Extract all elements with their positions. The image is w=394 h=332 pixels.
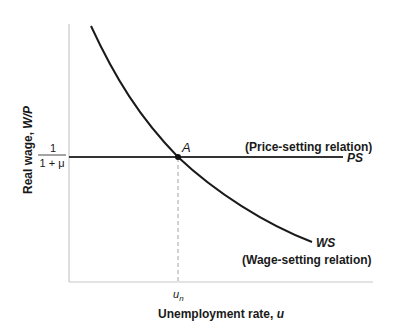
point-a-label: A (181, 140, 191, 155)
point-a-marker (175, 154, 181, 160)
x-axis-label: Unemployment rate, u (158, 307, 285, 321)
ws-name: WS (316, 236, 335, 250)
xtick-un: un (173, 288, 184, 303)
ytick-denominator: 1 + μ (40, 157, 65, 169)
ps-name: PS (347, 151, 363, 165)
chart-canvas: A (Price-setting relation) PS WS (Wage-s… (0, 0, 394, 332)
ws-curve (91, 26, 312, 242)
ytick-numerator: 1 (50, 142, 56, 154)
y-axis-label: Real wage, W/P (21, 105, 35, 194)
ws-description: (Wage-setting relation) (242, 253, 372, 267)
